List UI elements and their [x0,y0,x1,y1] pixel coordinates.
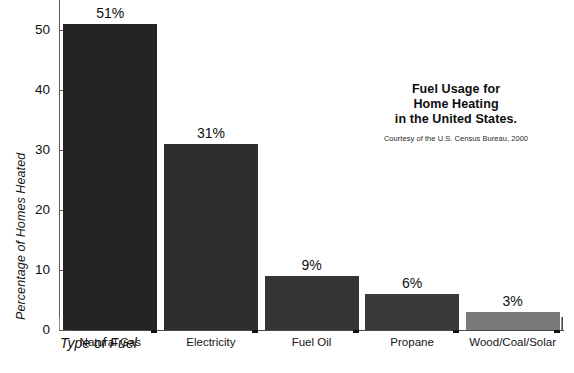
bar-value-label: 51% [63,6,157,20]
bar-value-label: 3% [466,294,560,308]
bar-value-label: 31% [164,126,258,140]
bar-natural-gas[interactable]: 51% [63,24,157,330]
plot-area: 51%31%9%6%3% [60,0,563,330]
chart-title-line-3: in the United States. [352,112,560,127]
x-axis-label-fuel-oil: Fuel Oil [261,336,362,349]
bar-fill [365,294,459,330]
bar-value-label: 9% [265,258,359,272]
bar-fill [164,144,258,330]
x-axis-label-propane: Propane [362,336,463,349]
bar-electricity[interactable]: 31% [164,144,258,330]
chart-source-credit: Courtesy of the U.S. Census Bureau, 2000 [352,134,560,143]
chart-title-block: Fuel Usage for Home Heating in the Unite… [352,82,560,143]
y-axis-tick [59,330,71,331]
y-axis-tick-label: 40 [10,83,50,97]
bar-value-label: 6% [365,276,459,290]
bar-wood-coal-solar[interactable]: 3% [466,312,560,330]
x-axis-title: Type of Fuel [60,335,142,351]
bar-chart: Percentage of Homes Heated 01020304050 5… [0,0,574,373]
y-axis-tick-label: 30 [10,143,50,157]
x-axis-label-electricity: Electricity [161,336,262,349]
bar-fill [63,24,157,330]
x-axis-line [59,330,564,331]
y-axis-tick-label: 50 [10,23,50,37]
x-axis-label-wood-coal-solar: Wood/Coal/Solar [462,336,563,349]
y-axis-tick-label: 10 [10,263,50,277]
chart-title-line-2: Home Heating [352,97,560,112]
chart-title-line-1: Fuel Usage for [352,82,560,97]
bar-propane[interactable]: 6% [365,294,459,330]
y-axis-tick-label: 20 [10,203,50,217]
bar-fill [265,276,359,330]
bar-fuel-oil[interactable]: 9% [265,276,359,330]
bar-fill [466,312,560,330]
y-axis-tick-label: 0 [10,323,50,337]
